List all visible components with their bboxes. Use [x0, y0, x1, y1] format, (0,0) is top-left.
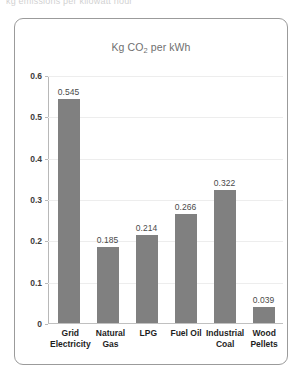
y-axis-tick-label: 0: [37, 319, 42, 329]
chart-title-prefix: Kg CO: [111, 41, 143, 53]
bar[interactable]: 0.214: [136, 235, 158, 323]
y-axis-tick: [45, 76, 48, 77]
y-axis-tick: [45, 117, 48, 118]
bar[interactable]: 0.322: [214, 190, 236, 323]
y-axis-tick-label: 0.6: [30, 71, 42, 81]
y-axis-tick-label: 0.1: [30, 278, 42, 288]
bar-value-label: 0.545: [58, 87, 79, 97]
y-axis-tick: [45, 324, 48, 325]
y-axis-tick-label: 0.4: [30, 154, 42, 164]
y-axis-tick: [45, 200, 48, 201]
bar[interactable]: 0.039: [253, 307, 275, 323]
y-axis-tick: [45, 241, 48, 242]
bar[interactable]: 0.266: [175, 214, 197, 324]
chart-frame: Kg CO2 per kWh 0.60.50.40.30.20.10 0.545…: [14, 18, 288, 365]
y-axis-tick-label: 0.3: [30, 195, 42, 205]
x-axis-category-label: Wood Pellets: [245, 328, 283, 349]
bar[interactable]: 0.185: [97, 247, 119, 323]
x-axis-category-label: Industrial Coal: [205, 328, 245, 349]
bar-slot: 0.039: [244, 76, 283, 323]
y-axis-tick-label: 0.5: [30, 112, 42, 122]
x-axis-category-label: LPG: [129, 328, 167, 349]
chart-title-subscript: 2: [143, 46, 147, 55]
bar-slot: 0.545: [49, 76, 88, 323]
bar-series: 0.5450.1850.2140.2660.3220.039: [49, 76, 283, 323]
bar-slot: 0.214: [127, 76, 166, 323]
x-axis-labels: Grid ElectricityNatural GasLPGFuel OilIn…: [49, 328, 283, 349]
bar-value-label: 0.214: [136, 223, 157, 233]
bar-value-label: 0.322: [214, 178, 235, 188]
bar[interactable]: 0.545: [58, 99, 80, 323]
cropped-caption-text: kg emissions per kilowatt hour: [6, 0, 296, 8]
y-axis-tick: [45, 159, 48, 160]
chart-title: Kg CO2 per kWh: [15, 41, 287, 53]
y-axis-tick-label: 0.2: [30, 236, 42, 246]
x-axis-line: [48, 323, 283, 324]
bar-slot: 0.185: [88, 76, 127, 323]
x-axis-category-label: Natural Gas: [92, 328, 130, 349]
x-axis-category-label: Grid Electricity: [49, 328, 92, 349]
bar-slot: 0.266: [166, 76, 205, 323]
bar-value-label: 0.266: [175, 202, 196, 212]
bar-value-label: 0.185: [97, 235, 118, 245]
x-axis-category-label: Fuel Oil: [167, 328, 205, 349]
bar-slot: 0.322: [205, 76, 244, 323]
bar-value-label: 0.039: [253, 295, 274, 305]
chart-title-suffix: per kWh: [148, 41, 191, 53]
y-axis-tick: [45, 283, 48, 284]
plot-area: 0.60.50.40.30.20.10 0.5450.1850.2140.266…: [48, 76, 283, 324]
